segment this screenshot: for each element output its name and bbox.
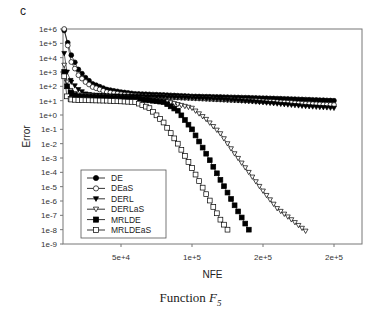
y-tick-label: 1e+1 (39, 97, 58, 106)
figure-caption: Function F5 (0, 290, 381, 308)
caption-prefix: Function (160, 290, 209, 305)
legend: DEDEaSDERLDERLaSMRLDEMRLDEaS (81, 170, 166, 238)
y-axis-label: Error (21, 125, 32, 148)
x-tick-label: 5e+4 (112, 253, 131, 262)
y-tick-label: 1e-1 (41, 125, 58, 134)
y-tick-label: 1e-5 (41, 183, 58, 192)
x-tick-label: 1e+5 (183, 253, 202, 262)
y-tick-label: 1e-2 (41, 140, 58, 149)
y-tick-label: 1e-4 (41, 168, 58, 177)
y-tick-label: 1e-9 (41, 240, 58, 249)
legend-label: DE (111, 173, 123, 183)
y-tick-label: 1e+2 (39, 82, 58, 91)
y-tick-label: 1e+3 (39, 68, 58, 77)
error-vs-nfe-chart: 1e+61e+51e+41e+31e+21e+11e+01e-11e-21e-3… (0, 0, 381, 290)
x-tick-label: 2e+5 (254, 253, 273, 262)
x-tick-label: 2e+5 (325, 253, 344, 262)
legend-label: DERLaS (111, 204, 144, 214)
y-tick-label: 1e-3 (41, 154, 58, 163)
legend-label: DERL (111, 194, 134, 204)
caption-subscript: 5 (217, 298, 222, 308)
legend-label: MRLDEaS (111, 225, 151, 235)
y-tick-label: 1e-8 (41, 226, 58, 235)
caption-symbol: F (209, 290, 217, 305)
y-tick-label: 1e-7 (41, 211, 58, 220)
y-tick-label: 1e-6 (41, 197, 58, 206)
legend-label: DEaS (111, 183, 134, 193)
y-tick-label: 1e+5 (39, 39, 58, 48)
y-tick-label: 1e+4 (39, 54, 58, 63)
legend-label: MRLDE (111, 215, 141, 225)
x-axis-label: NFE (203, 269, 223, 280)
y-tick-label: 1e+0 (39, 111, 58, 120)
y-tick-label: 1e+6 (39, 25, 58, 34)
